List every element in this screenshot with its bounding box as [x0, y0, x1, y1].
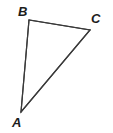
triangle-figure: B C A — [0, 0, 113, 133]
edge-BC — [29, 20, 90, 30]
triangle-shape — [21, 20, 90, 112]
edge-CA — [21, 30, 90, 112]
vertex-label-b: B — [18, 5, 27, 18]
edge-AB — [21, 20, 29, 112]
vertex-label-c: C — [91, 12, 100, 25]
vertex-label-a: A — [12, 116, 21, 129]
